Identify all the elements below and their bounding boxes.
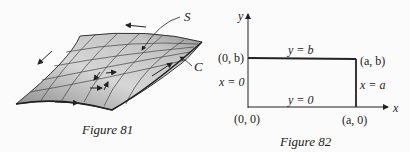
x-axis-label: x [392,101,399,115]
corner-bottom-right: (a, 0) [342,113,367,127]
label-c: C [194,59,203,74]
corner-top-left: (0, b) [218,51,244,65]
label-s: S [184,9,191,24]
edge-top [248,58,356,59]
edge-top-label: y = b [287,43,313,57]
figure-81: S C Figure 81 [16,9,203,137]
caption-figure-81: Figure 81 [81,122,133,137]
y-axis-label: y [237,9,244,23]
edge-bottom-label: y = 0 [287,93,313,107]
figure-82: y x (0, b) (a, b) (0, 0) (a, 0) y = b y … [218,9,399,149]
surface-s [16,33,202,110]
figures-canvas: S C Figure 81 y x (0, b) (a, b) (0, 0) (… [0,0,410,152]
corner-origin: (0, 0) [234,112,260,126]
edge-left-label: x = 0 [218,75,244,89]
edge-right-label: x = a [359,78,385,92]
corner-top-right: (a, b) [360,54,385,68]
caption-figure-82: Figure 82 [279,134,332,149]
